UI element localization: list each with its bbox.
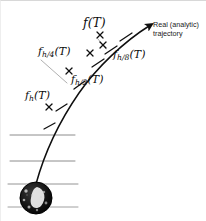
cross-marker-fh (46, 104, 52, 110)
label-f-h-T: fh(T) (25, 90, 50, 103)
trajectory-diagram: f(T) fh/8(T) fh/4(T) fh/2(T) fh(T) Real … (0, 0, 206, 221)
label-f-T: f(T) (83, 17, 106, 30)
label-f-h2-T: fh/2(T) (71, 74, 103, 87)
cross-marker-fh8 (100, 42, 106, 48)
step-tick (56, 104, 67, 111)
label-f-h8-T: fh/8(T) (113, 49, 145, 62)
label-f-h2-T-sub: h/2 (75, 78, 87, 87)
label-f-h2-T-arg: (T) (88, 73, 104, 86)
label-f-h8-T-arg: (T) (130, 48, 146, 61)
label-f-h4-T: fh/4(T) (38, 46, 70, 59)
leader-line (41, 60, 67, 83)
label-f-T-arg: (T) (88, 15, 106, 30)
projectile-ball (20, 182, 52, 214)
step-tick (44, 123, 55, 129)
cross-marker-fh4 (87, 50, 93, 56)
label-f-h8-T-sub: h/8 (117, 53, 129, 62)
cross-marker-f (97, 32, 103, 38)
label-f-h4-T-arg: (T) (55, 45, 71, 58)
real-trajectory-annotation: Real (analytic) trajectory (153, 20, 199, 38)
label-f-h-T-arg: (T) (34, 89, 50, 102)
label-f-h4-T-sub: h/4 (42, 50, 54, 59)
